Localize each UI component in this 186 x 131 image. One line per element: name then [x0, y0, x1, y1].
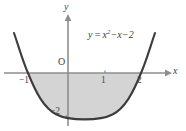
parabola-figure: y x O −1 1 2 −2 y = x2−x−2: [0, 0, 186, 131]
x-axis-label: x: [173, 66, 177, 76]
equation-rest: −x−2: [110, 29, 133, 40]
shaded-area-region: [28, 73, 141, 119]
x-tick-label-two: 2: [137, 76, 142, 86]
x-tick-label-one: 1: [101, 76, 106, 86]
y-tick-label-neg-two: −2: [50, 107, 60, 117]
x-tick-label-neg-one: −1: [19, 76, 29, 86]
plot-canvas: [0, 0, 186, 131]
origin-label: O: [58, 57, 65, 67]
curve-equation-label: y = x2−x−2: [88, 28, 134, 40]
y-axis-label: y: [64, 2, 68, 12]
